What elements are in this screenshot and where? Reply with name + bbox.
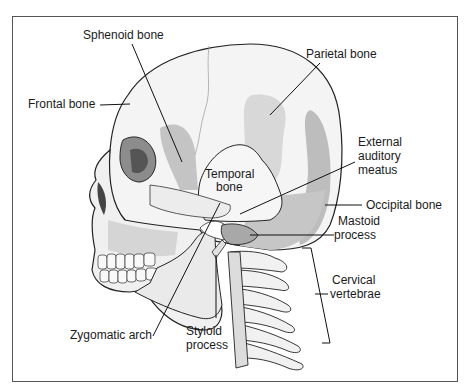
label-external-auditory-meatus-line1: External [358, 136, 402, 149]
label-frontal-bone: Frontal bone [28, 98, 95, 111]
label-mastoid-process-line2: process [334, 229, 376, 242]
label-styloid-process-line2: process [186, 339, 228, 352]
cervical-vertebrae [228, 251, 303, 370]
label-external-auditory-meatus-line2: auditory [358, 150, 401, 163]
label-cervical-vertebrae-line2: vertebrae [330, 288, 381, 301]
label-cervical-vertebrae-line1: Cervical [332, 274, 375, 287]
label-sphenoid-bone: Sphenoid bone [83, 29, 164, 42]
label-temporal-bone-line2: bone [216, 181, 243, 194]
label-mastoid-process-line1: Mastoid [338, 215, 380, 228]
label-zygomatic-arch: Zygomatic arch [70, 329, 152, 342]
label-external-auditory-meatus-line3: meatus [358, 164, 397, 177]
label-styloid-process-line1: Styloid [186, 325, 222, 338]
label-parietal-bone: Parietal bone [306, 48, 377, 61]
label-occipital-bone: Occipital bone [366, 199, 442, 212]
